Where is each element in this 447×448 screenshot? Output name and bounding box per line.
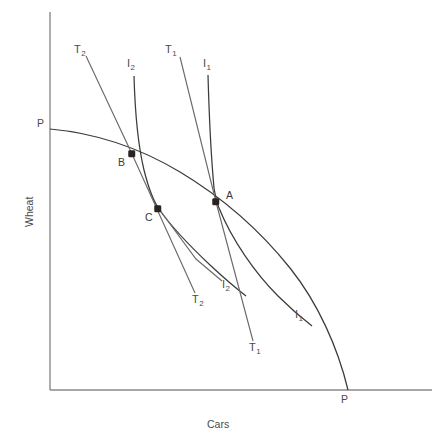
- label-t2-top: T2: [74, 44, 86, 55]
- label-t2-bottom-subscript: 2: [199, 299, 204, 308]
- label-i1-top: I1: [203, 58, 211, 69]
- ppf-endpoint-label-bottom: P: [341, 394, 348, 405]
- ppf-endpoint-label-top: P: [37, 118, 44, 129]
- label-t1-bottom-text: T: [249, 341, 256, 353]
- label-i2-top-subscript: 2: [130, 63, 135, 72]
- label-i1-top-subscript: 1: [206, 63, 211, 72]
- point-label-a: A: [226, 190, 233, 201]
- label-t1-bottom-subscript: 1: [256, 347, 261, 356]
- label-t1-top-text: T: [165, 43, 172, 55]
- indifference-curve-i2: [134, 76, 246, 296]
- label-i1-bottom-subscript: 1: [298, 314, 303, 323]
- x-axis-title: Cars: [207, 419, 229, 430]
- label-t2-top-subscript: 2: [81, 49, 86, 58]
- point-label-b: B: [118, 157, 125, 168]
- label-t1-top-subscript: 1: [172, 49, 177, 58]
- label-t1-top: T1: [165, 44, 177, 55]
- label-t2-bottom-text: T: [192, 293, 199, 305]
- label-i2-bottom-subscript: 2: [225, 284, 230, 293]
- point-marker-c: [155, 206, 162, 213]
- tangent-line-t2: [86, 56, 195, 293]
- label-t1-bottom: T1: [249, 342, 261, 353]
- point-marker-b: [129, 151, 136, 158]
- y-axis-title: Wheat: [24, 197, 35, 227]
- ppf-indifference-chart: T2 I2 T1 I1 T2 I2 T1 I1 A B C P P Wheat …: [0, 0, 447, 448]
- label-i2-top: I2: [127, 58, 135, 69]
- ppf-curve: [50, 129, 348, 390]
- label-t2-top-text: T: [74, 43, 81, 55]
- label-i2-bottom: I2: [222, 279, 230, 290]
- point-label-c: C: [145, 212, 153, 223]
- label-t2-bottom: T2: [192, 294, 204, 305]
- label-i1-bottom: I1: [295, 309, 303, 320]
- chart-canvas: [0, 0, 447, 448]
- point-marker-a: [213, 199, 220, 206]
